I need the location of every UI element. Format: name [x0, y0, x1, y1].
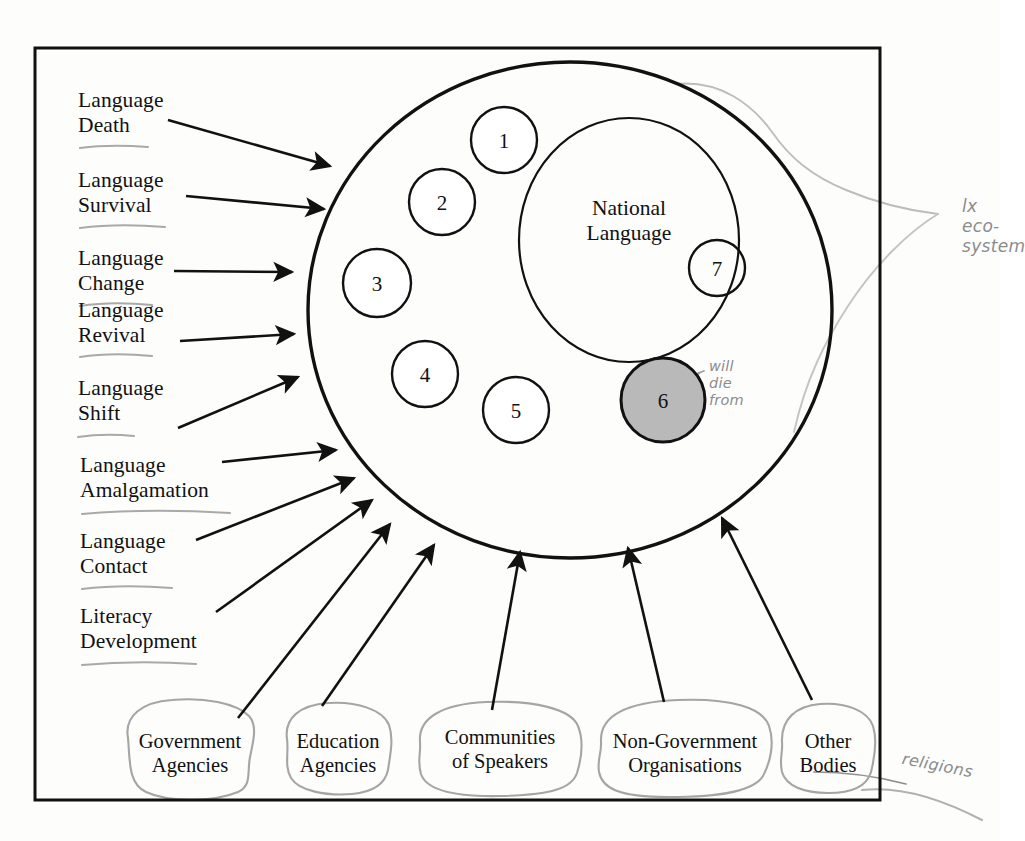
numbered-circles-group — [343, 107, 745, 443]
actor-label-government-agencies: GovernmentAgencies — [123, 730, 257, 778]
circle-4-number: 4 — [420, 363, 431, 388]
arrow-language-death — [168, 120, 330, 166]
arrow-communities-of-speakers — [492, 552, 520, 710]
circle-5-number: 5 — [511, 399, 522, 424]
national-language-label: NationalLanguage — [587, 196, 672, 246]
actor-label-communities-of-speakers: Communitiesof Speakers — [418, 726, 582, 774]
process-label-language-shift: LanguageShift — [78, 376, 164, 426]
will-die-from-note: willdiefrom — [709, 358, 744, 409]
circle-3-number: 3 — [372, 272, 383, 297]
arrow-language-revival — [180, 334, 294, 341]
arrow-language-shift — [178, 377, 298, 428]
process-label-language-revival: LanguageRevival — [78, 298, 164, 348]
circle-6-number: 6 — [658, 389, 669, 414]
actor-label-other-bodies: OtherBodies — [780, 730, 876, 778]
arrow-language-change — [174, 271, 292, 272]
circle-2-number: 2 — [437, 191, 448, 216]
actor-label-education-agencies: EducationAgencies — [281, 730, 395, 778]
arrow-literacy-development — [216, 500, 372, 612]
circle-1-number: 1 — [499, 129, 510, 154]
process-label-language-survival: LanguageSurvival — [78, 168, 164, 218]
arrow-language-amalgamation — [222, 450, 336, 462]
arrow-language-survival — [186, 196, 324, 209]
process-label-language-amalgamation: LanguageAmalgamation — [80, 453, 209, 503]
process-label-literacy-development: LiteracyDevelopment — [80, 604, 197, 654]
lx-ecosystem-note: lxeco-system — [962, 196, 1025, 256]
arrow-non-government-organisations — [628, 548, 664, 702]
actor-arrows-left — [238, 524, 434, 718]
arrow-education-agencies — [322, 545, 434, 706]
actor-label-non-government-organisations: Non-GovernmentOrganisations — [599, 730, 771, 778]
arrow-other-bodies — [722, 518, 812, 700]
process-label-language-change: LanguageChange — [78, 246, 164, 296]
circle-7-number: 7 — [712, 257, 723, 282]
process-label-language-contact: LanguageContact — [80, 529, 166, 579]
process-arrows — [168, 120, 372, 612]
arrow-government-agencies — [238, 524, 390, 718]
process-label-language-death: LanguageDeath — [78, 88, 164, 138]
